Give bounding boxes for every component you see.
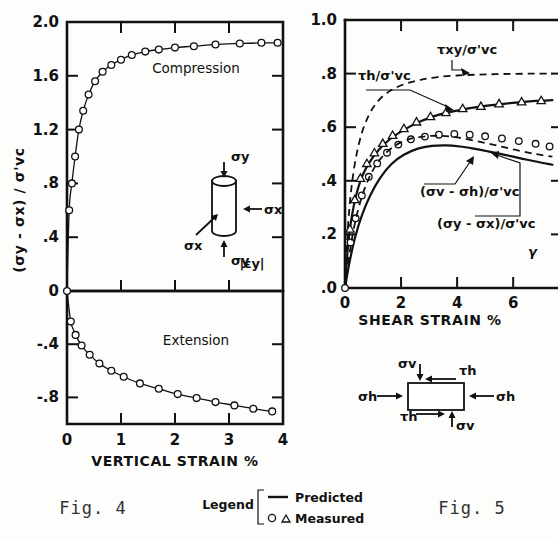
fig5-ytick-label: 1.0 bbox=[310, 11, 337, 29]
fig4-xtick-label: 3 bbox=[224, 431, 234, 449]
fig4-bot-ytick-label: -.8 bbox=[37, 388, 59, 406]
fig5-xtick-label: 4 bbox=[452, 294, 462, 312]
fig4-xtick-label: 4 bbox=[278, 431, 288, 449]
tau-h-top-arrowhead bbox=[425, 376, 432, 383]
fig4-top-ytick-label: 2.0 bbox=[32, 13, 59, 31]
fig5-measured-triangle bbox=[346, 225, 354, 232]
fig4-extension-point bbox=[120, 373, 127, 380]
fig5-label-tau-h: τh/σ'vc bbox=[358, 68, 411, 83]
fig5-ytick-label: .6 bbox=[321, 118, 337, 136]
fig4-xtick-label: 1 bbox=[116, 431, 126, 449]
fig4-top-ytick-label: 0 bbox=[49, 282, 59, 300]
legend-bracket bbox=[258, 490, 264, 524]
fig4-compression-point bbox=[108, 62, 115, 69]
fig4-extension-point bbox=[231, 402, 238, 409]
fig4-extension-point bbox=[86, 351, 93, 358]
fig4-compression-point bbox=[236, 40, 243, 47]
fig5-xtick-label: 6 bbox=[508, 294, 518, 312]
legend-circle-symbol bbox=[268, 514, 275, 521]
fig4-compression-point bbox=[118, 56, 125, 63]
fig5-ytick-label: .8 bbox=[321, 65, 337, 83]
fig4-extension-point bbox=[137, 380, 144, 387]
fig5-inset-sigma-h-right: σh bbox=[496, 389, 515, 404]
fig4-compression-point bbox=[92, 78, 99, 85]
fig4-inset-sigma-y-bottom: σy bbox=[231, 253, 250, 268]
fig5-label-tau-xy: τxy/σ'vc bbox=[437, 42, 497, 57]
fig5-xtick-label: 2 bbox=[396, 294, 406, 312]
fig5-gamma-symbol: γ bbox=[528, 244, 538, 259]
fig4-extension-point bbox=[78, 342, 85, 349]
fig4-compression-point bbox=[172, 44, 179, 51]
fig5-group: 1.0.8.6.4.2.00246 τxy/σ'vc τh/σ'vc (σv -… bbox=[310, 11, 558, 518]
fig4-compression-label: Compression bbox=[152, 60, 240, 76]
fig5-ytick-label: .2 bbox=[321, 225, 337, 243]
fig4-compression-point bbox=[128, 52, 135, 59]
fig4-top-ytick-label: 1.6 bbox=[32, 67, 59, 85]
fig4-compression-point bbox=[274, 39, 281, 46]
legend-predicted-label: Predicted bbox=[295, 490, 363, 505]
fig5-ytick-label: .0 bbox=[321, 279, 337, 297]
fig4-bot-ytick-label: -.4 bbox=[37, 335, 59, 353]
fig5-ytick-label: .4 bbox=[321, 172, 337, 190]
sigma-h-left-arrowhead bbox=[396, 393, 403, 400]
fig5-origin-point bbox=[342, 285, 349, 292]
figure-container: 2.01.61.2.8.40-.4-.801234 (σy - σx) / σ'… bbox=[0, 0, 558, 541]
fig4-compression-point bbox=[69, 180, 76, 187]
fig5-measured-circle bbox=[352, 215, 359, 222]
fig4-x-axis-label: VERTICAL STRAIN % bbox=[91, 453, 259, 469]
fig4-y-axis-label: (σy - σx) / σ'vc bbox=[11, 147, 27, 272]
fig5-caption: Fig. 5 bbox=[438, 498, 505, 518]
fig5-inset-sigma-h-left: σh bbox=[358, 389, 377, 404]
fig4-bottom-axes bbox=[67, 291, 283, 424]
legend-title: Legend bbox=[202, 497, 254, 512]
fig5-inset-tau-h-bottom: τh bbox=[400, 409, 418, 424]
fig5-inset-sigma-v-bottom: σv bbox=[456, 418, 475, 433]
fig4-extension-point bbox=[155, 385, 162, 392]
legend-triangle-symbol bbox=[282, 515, 290, 522]
tau-h-bottom-arrowhead bbox=[438, 411, 445, 418]
fig5-measured-triangle bbox=[351, 195, 359, 202]
fig5-element-inset: σv τh σh σh τh σv bbox=[358, 356, 515, 433]
fig4-compression-point bbox=[99, 68, 106, 75]
fig4-compression-point bbox=[72, 153, 79, 160]
fig5-leader-tau-xy bbox=[452, 60, 464, 70]
fig4-top-ytick-label: .4 bbox=[43, 228, 59, 246]
fig4-xtick-label: 2 bbox=[170, 431, 180, 449]
fig4-extension-point bbox=[193, 395, 200, 402]
fig4-compression-point bbox=[142, 48, 149, 55]
fig4-xtick-label: 0 bbox=[62, 431, 72, 449]
fig4-compression-point bbox=[76, 126, 83, 133]
fig4-top-ytick-label: .8 bbox=[43, 174, 59, 192]
soil-element-rect bbox=[408, 383, 464, 410]
fig5-xtick-label: 0 bbox=[340, 294, 350, 312]
fig4-extension-curve bbox=[67, 291, 272, 411]
fig4-ticks: 2.01.61.2.8.40-.4-.801234 bbox=[32, 13, 288, 449]
fig4-compression-point bbox=[66, 207, 73, 214]
fig4-extension-point bbox=[269, 408, 276, 415]
fig5-measured-circle bbox=[359, 192, 366, 199]
fig4-extension-point bbox=[212, 399, 219, 406]
fig4-extension-point bbox=[250, 405, 257, 412]
fig4-origin-point bbox=[64, 288, 71, 295]
fig5-measured-circle bbox=[499, 135, 506, 142]
fig5-measured-circle bbox=[436, 131, 443, 138]
scientific-figure-svg: 2.01.61.2.8.40-.4-.801234 (σy - σx) / σ'… bbox=[0, 0, 558, 541]
fig5-inset-sigma-v-top: σv bbox=[398, 356, 417, 371]
fig4-top-ytick-label: 1.2 bbox=[32, 121, 59, 139]
fig5-inset-tau-h-top: τh bbox=[459, 363, 477, 378]
sigma-x-right-arrowhead bbox=[243, 206, 250, 213]
sigma-v-top-arrowhead bbox=[417, 374, 424, 381]
fig4-compression-point bbox=[155, 46, 162, 53]
sigma-v-bottom-arrowhead bbox=[449, 411, 456, 418]
sigma-h-right-arrowhead bbox=[469, 393, 476, 400]
fig4-compression-point bbox=[212, 41, 219, 48]
fig4-extension-point bbox=[96, 360, 103, 367]
fig5-x-axis-label: SHEAR STRAIN % bbox=[358, 312, 501, 328]
fig4-compression-point bbox=[258, 39, 265, 46]
fig4-data-curves bbox=[64, 39, 281, 414]
sigma-y-bottom-arrowhead bbox=[221, 240, 228, 247]
fig5-measured-circle bbox=[532, 141, 539, 148]
fig5-label-sv-sh: (σv - σh)/σ'vc bbox=[420, 184, 519, 199]
fig4-compression-point bbox=[85, 91, 92, 98]
fig4-inset-sigma-y-top: σy bbox=[231, 149, 250, 164]
